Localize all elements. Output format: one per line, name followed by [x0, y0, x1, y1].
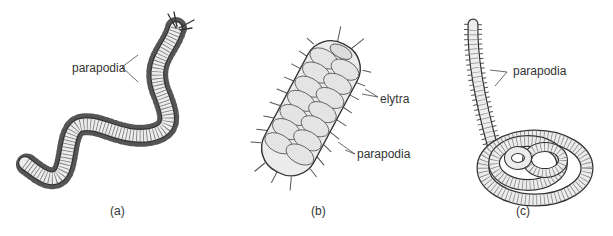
coiled-worm-illustration — [410, 0, 613, 236]
panel-b: elytra parapodia (b) — [210, 0, 410, 236]
panel-caption: (c) — [516, 205, 530, 217]
panel-a: parapodia (a) — [0, 0, 210, 236]
panel-c: parapodia (c) — [410, 0, 613, 236]
label-elytra: elytra — [380, 93, 409, 105]
leader-line — [490, 70, 507, 86]
label-parapodia: parapodia — [357, 148, 410, 160]
label-parapodia: parapodia — [72, 62, 125, 74]
label-parapodia: parapodia — [513, 65, 566, 77]
panel-caption: (a) — [110, 205, 125, 217]
wavy-worm-illustration — [0, 0, 210, 236]
leader-line-parapodia — [338, 142, 355, 154]
leader-line-elytra — [362, 89, 378, 97]
scale-worm-illustration — [210, 0, 410, 236]
panel-caption: (b) — [311, 205, 326, 217]
